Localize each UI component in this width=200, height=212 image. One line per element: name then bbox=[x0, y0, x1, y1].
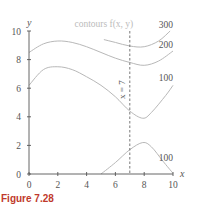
ticks bbox=[27, 31, 173, 176]
x-tick-label: 4 bbox=[84, 180, 89, 190]
annotation-2: 300 bbox=[159, 20, 174, 30]
x-tick-label: 2 bbox=[55, 180, 60, 190]
y-tick-label: 8 bbox=[16, 55, 21, 65]
y-tick-label: 0 bbox=[16, 170, 21, 180]
x-tick-label: 8 bbox=[142, 180, 147, 190]
y-tick-label: 6 bbox=[16, 84, 21, 94]
x-tick-label: 0 bbox=[27, 180, 32, 190]
annotation-1: x = 7 bbox=[117, 80, 127, 99]
figure-caption: Figure 7.28 bbox=[1, 193, 54, 204]
annotation-3: 200 bbox=[159, 40, 174, 50]
x-tick-label: 10 bbox=[168, 180, 178, 190]
annotation-0: contours f(x, y) bbox=[74, 19, 133, 30]
tick-labels: 02468100246810 bbox=[12, 27, 179, 191]
contour-curve-2 bbox=[29, 67, 173, 119]
curves bbox=[29, 31, 173, 174]
annotation-4: 100 bbox=[159, 73, 174, 83]
contour-chart: 02468100246810 y x contours f(x, y)x = 7… bbox=[0, 0, 200, 212]
y-tick-label: 2 bbox=[16, 141, 21, 151]
y-tick-label: 4 bbox=[16, 112, 21, 122]
annotations: contours f(x, y)x = 7300200100100 bbox=[74, 19, 173, 163]
x-tick-label: 6 bbox=[113, 180, 118, 190]
y-axis-label: y bbox=[26, 17, 32, 28]
x-axis-label: x bbox=[179, 168, 185, 179]
annotation-5: 100 bbox=[159, 153, 174, 163]
y-tick-label: 10 bbox=[12, 27, 22, 37]
